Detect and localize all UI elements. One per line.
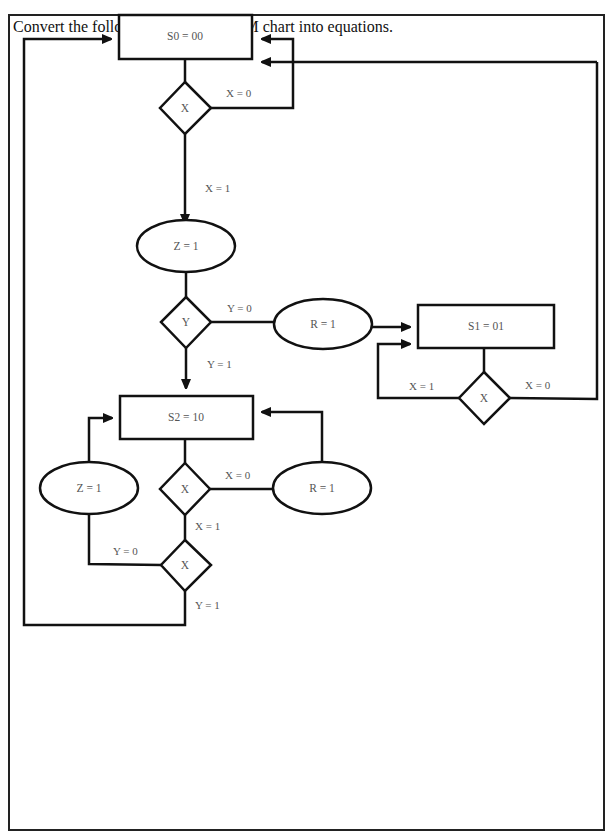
decision-label-s2-y: X bbox=[181, 559, 190, 571]
edge-label-s2-y0: Y = 0 bbox=[113, 545, 138, 557]
edge-label-s0-y1: Y = 1 bbox=[207, 358, 232, 370]
state-label-s1: S1 = 01 bbox=[468, 320, 504, 332]
output-label-s2-r: R = 1 bbox=[309, 482, 335, 494]
sm-chart: S0 = 00 X Z = 1 Y R = 1 S1 = 01 X S2 = 1… bbox=[0, 0, 611, 837]
edge-label-s2-x1: X = 1 bbox=[195, 520, 220, 532]
decision-label-s0-x: X bbox=[181, 102, 190, 114]
decision-label-s0-y: Y bbox=[182, 316, 191, 328]
edge-label-s1-x0: X = 0 bbox=[525, 379, 551, 391]
edge-label-s0-x0: X = 0 bbox=[226, 87, 252, 99]
output-label-s0-z: Z = 1 bbox=[173, 240, 198, 252]
edge-label-s1-x1: X = 1 bbox=[409, 380, 434, 392]
state-label-s0: S0 = 00 bbox=[167, 30, 203, 42]
edge-label-s0-y0: Y = 0 bbox=[227, 302, 252, 314]
decision-label-s2-x: X bbox=[181, 483, 190, 495]
output-label-s0-r: R = 1 bbox=[310, 318, 336, 330]
edge-label-s0-x1: X = 1 bbox=[205, 182, 230, 194]
output-label-s2-z: Z = 1 bbox=[76, 482, 101, 494]
edge-label-s2-x0: X = 0 bbox=[225, 469, 251, 481]
state-label-s2: S2 = 10 bbox=[168, 411, 204, 423]
edge-label-s2-y1: Y = 1 bbox=[195, 599, 220, 611]
decision-label-s1-x: X bbox=[480, 392, 489, 404]
